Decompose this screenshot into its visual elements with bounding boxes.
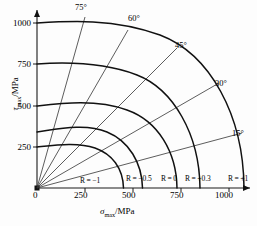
- y-tick-label-1000: 1000: [7, 18, 31, 28]
- x-axis-title-units: /MPa: [115, 206, 135, 216]
- r-label-minus-0-5: R = −0.5: [126, 174, 152, 183]
- x-axis-ticks: [85, 188, 229, 192]
- y-axis-title-subscript: max: [15, 97, 22, 108]
- angle-label-30: 30°: [215, 78, 227, 88]
- y-axis-title-symbol: τ: [10, 107, 20, 110]
- r-label-plus-0-3: R = +0.3: [185, 174, 211, 183]
- r-label-plus-1: R = +1: [228, 174, 248, 183]
- x-tick-label-500: 500: [122, 190, 136, 200]
- angle-label-45: 45°: [175, 40, 187, 50]
- angle-label-15: 15°: [232, 128, 244, 138]
- y-axis-title: τmax/MPa: [10, 64, 22, 124]
- ray-60deg: [37, 30, 128, 188]
- angle-label-75: 75°: [75, 2, 87, 12]
- r-label-0: R = 0: [161, 174, 177, 183]
- polar-fatigue-diagram: 0 250 500 750 1000 250 500 750 1000 75° …: [0, 0, 257, 226]
- x-tick-label-1000: 1000: [215, 190, 233, 200]
- x-tick-label-250: 250: [74, 190, 88, 200]
- y-tick-label-250: 250: [11, 142, 31, 152]
- y-axis-arrowhead: [34, 10, 40, 17]
- angle-label-60: 60°: [128, 13, 140, 23]
- x-tick-label-750: 750: [170, 190, 184, 200]
- y-axis-ticks: [33, 23, 37, 147]
- ray-30deg: [37, 83, 219, 188]
- x-tick-label-0: 0: [33, 190, 38, 200]
- arc-R-plus-1: [37, 21, 244, 188]
- ray-45deg: [37, 48, 177, 188]
- constant-R-arcs: [37, 21, 244, 188]
- x-axis-title: σmax/MPa: [100, 206, 135, 218]
- r-label-minus-1: R = −1: [80, 176, 100, 185]
- y-axis-title-units: /MPa: [10, 77, 20, 97]
- x-axis-title-subscript: max: [104, 211, 115, 218]
- y-axis-group: [34, 10, 40, 188]
